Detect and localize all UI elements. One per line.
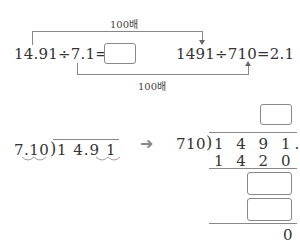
arrow-up-icon: [245, 61, 251, 66]
left-equation: 14.91÷7.1=: [14, 45, 108, 63]
right-arrow-icon: ➜: [140, 134, 153, 153]
right-divisor: 710: [176, 135, 206, 153]
division-bar-right: [209, 132, 297, 133]
top-bracket-left-vertical: [32, 31, 33, 45]
subtraction-line-2: [209, 223, 297, 224]
answer-box-quotient[interactable]: [104, 43, 136, 64]
answer-box-subtract-2[interactable]: [247, 198, 292, 221]
decimal-shift-arrows-icon: [20, 155, 120, 165]
final-remainder: 0: [283, 226, 297, 244]
top-bracket-horizontal: [32, 31, 202, 32]
bottom-bracket-horizontal: [77, 74, 249, 75]
answer-box-remainder-1[interactable]: [247, 172, 292, 195]
right-equation: 1491÷710=2.1: [176, 45, 294, 63]
bottom-bracket-right-vertical: [248, 65, 249, 75]
label-100x-bottom: 100배: [138, 78, 166, 93]
right-dividend: 1 4 9 1.0: [214, 135, 300, 153]
division-bar-left: [53, 139, 119, 140]
answer-box-quotient-digit[interactable]: [260, 104, 292, 125]
division-bracket-right: ): [206, 133, 212, 152]
subtraction-line-1: [209, 168, 297, 169]
label-100x-top: 100배: [110, 16, 138, 31]
